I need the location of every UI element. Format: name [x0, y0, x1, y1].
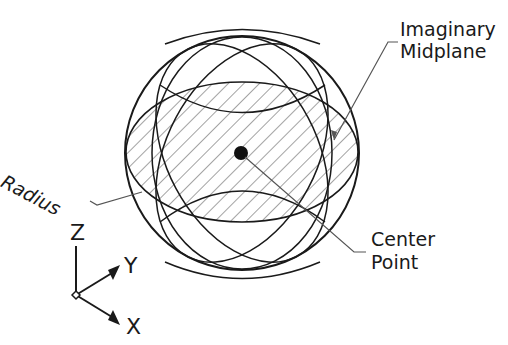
x-axis-label: X	[126, 316, 141, 338]
center-point-label-line1: Center	[371, 228, 435, 250]
center-point-label-line2: Point	[371, 251, 418, 273]
z-axis-label: Z	[70, 222, 85, 244]
y-axis-label: Y	[124, 255, 137, 277]
y-arrowhead-icon	[108, 265, 120, 280]
midplane-label-line1: Imaginary	[400, 18, 496, 40]
x-arrowhead-icon	[108, 310, 120, 325]
midplane-label-line2: Midplane	[400, 40, 486, 62]
axis-triad	[72, 246, 112, 317]
